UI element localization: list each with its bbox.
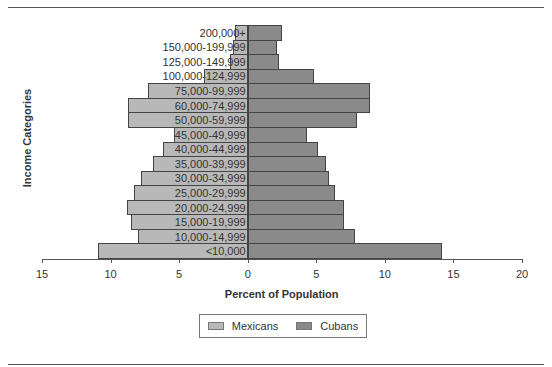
bottom-rule <box>8 364 544 365</box>
x-tick-label: 15 <box>27 268 57 280</box>
category-label: 60,000-74,999 <box>175 100 246 113</box>
x-tick-label: 0 <box>233 268 263 280</box>
zero-line <box>248 25 249 263</box>
bar-cubans <box>248 229 355 245</box>
x-tick <box>248 259 249 263</box>
x-tick-label: 15 <box>438 268 468 280</box>
x-tick-label: 10 <box>96 268 126 280</box>
x-tick <box>522 259 523 263</box>
x-tick <box>42 259 43 263</box>
legend-swatch-cubans <box>296 322 312 330</box>
x-axis-line <box>42 259 522 260</box>
bar-cubans <box>248 25 282 41</box>
x-axis-label: Percent of Population <box>182 288 382 300</box>
x-tick-label: 5 <box>164 268 194 280</box>
category-label: 75,000-99,999 <box>175 85 246 98</box>
x-tick-label: 10 <box>370 268 400 280</box>
legend-label-cubans: Cubans <box>320 320 358 332</box>
x-tick <box>179 259 180 263</box>
population-pyramid-plot: <10,00010,000-14,99915,000-19,99920,000-… <box>0 0 552 300</box>
bar-cubans <box>248 200 344 216</box>
category-label: 20,000-24,999 <box>175 202 246 215</box>
x-tick <box>453 259 454 263</box>
category-label: 30,000-34,999 <box>175 172 246 185</box>
x-tick-label: 20 <box>507 268 537 280</box>
x-tick <box>111 259 112 263</box>
category-label: 200,000+ <box>200 27 246 40</box>
bar-cubans <box>248 40 277 56</box>
category-label: 35,000-39,999 <box>175 158 246 171</box>
x-tick <box>316 259 317 263</box>
bar-cubans <box>248 54 280 70</box>
bar-cubans <box>248 171 329 187</box>
x-tick-label: 5 <box>301 268 331 280</box>
category-label: 50,000-59,999 <box>175 114 246 127</box>
bar-cubans <box>248 127 307 143</box>
y-axis-label: Income Categories <box>21 88 33 188</box>
category-label: 15,000-19,999 <box>175 216 246 229</box>
bar-cubans <box>248 156 326 172</box>
bar-cubans <box>248 243 443 259</box>
legend-item-cubans: Cubans <box>296 320 358 332</box>
category-label: 150,000-199,999 <box>163 41 246 54</box>
legend-label-mexicans: Mexicans <box>232 320 278 332</box>
bar-cubans <box>248 142 318 158</box>
legend-item-mexicans: Mexicans <box>208 320 278 332</box>
bar-cubans <box>248 214 344 230</box>
category-label: 25,000-29,999 <box>175 187 246 200</box>
category-label: 125,000-149,999 <box>163 56 246 69</box>
category-label: 45,000-49,999 <box>175 129 246 142</box>
bar-cubans <box>248 185 336 201</box>
legend-swatch-mexicans <box>208 322 224 330</box>
x-tick <box>385 259 386 263</box>
bar-cubans <box>248 112 358 128</box>
category-label: 100,000-124,999 <box>163 70 246 83</box>
category-label: 10,000-14,999 <box>175 231 246 244</box>
bar-cubans <box>248 98 370 114</box>
category-label: 40,000-44,999 <box>175 143 246 156</box>
legend: Mexicans Cubans <box>199 314 367 338</box>
bar-cubans <box>248 83 370 99</box>
category-label: <10,000 <box>206 245 246 258</box>
bar-cubans <box>248 69 314 85</box>
